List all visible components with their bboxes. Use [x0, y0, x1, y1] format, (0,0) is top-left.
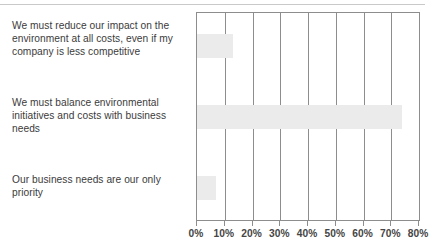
x-axis-tick [390, 221, 391, 226]
x-axis-tick-labels: 0%10%20%30%40%50%60%70%80% [196, 227, 420, 241]
bar [197, 34, 233, 58]
x-axis-tick-label: 80% [398, 227, 433, 240]
x-axis-tick [418, 221, 419, 226]
x-axis-tick [363, 221, 364, 226]
category-label: We must balance environmental initiative… [12, 96, 194, 136]
bar-chart-figure: We must reduce our impact on the environ… [0, 0, 433, 244]
top-divider-rule [0, 4, 425, 5]
category-label-column: We must reduce our impact on the environ… [0, 12, 196, 221]
x-axis-tick [196, 221, 197, 226]
x-axis-ticks [196, 221, 420, 226]
plot-area [196, 12, 420, 221]
bar [197, 105, 402, 129]
category-label: We must reduce our impact on the environ… [12, 19, 194, 59]
x-axis-tick [335, 221, 336, 226]
x-axis-tick [252, 221, 253, 226]
bar [197, 176, 216, 200]
x-axis-tick [279, 221, 280, 226]
x-axis-tick [224, 221, 225, 226]
category-label: Our business needs are our only priority [12, 173, 194, 199]
x-axis-tick [307, 221, 308, 226]
bar-series [197, 13, 419, 220]
